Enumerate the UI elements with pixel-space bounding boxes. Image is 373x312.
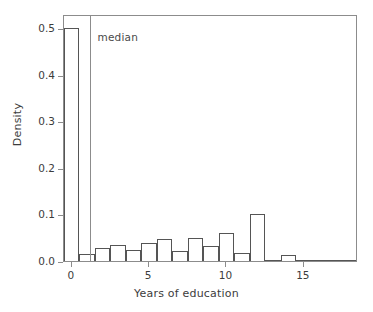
histogram-bar — [95, 248, 110, 261]
histogram-bar — [296, 260, 311, 261]
histogram-bar — [172, 251, 187, 261]
y-tick-label: 0.4 — [38, 69, 55, 81]
median-vline — [90, 16, 91, 261]
x-tick-mark — [148, 262, 149, 267]
y-axis-tick: 0.5 — [0, 29, 63, 30]
histogram-bar — [265, 260, 280, 261]
histogram-bar — [281, 255, 296, 261]
x-tick-label: 10 — [211, 269, 239, 281]
x-tick-label: 5 — [134, 269, 162, 281]
histogram-bar — [250, 214, 265, 261]
plot-frame: median — [63, 15, 357, 262]
histogram-bar — [157, 239, 172, 261]
histogram-bar — [327, 260, 342, 261]
x-tick-label: 15 — [289, 269, 317, 281]
histogram-figure: Density 0.00.10.20.30.40.5 median 051015… — [0, 0, 373, 312]
histogram-bar — [219, 233, 234, 261]
histogram-bar — [79, 254, 94, 261]
x-tick-label: 0 — [57, 269, 85, 281]
y-axis-tick: 0.3 — [0, 122, 63, 123]
histogram-bar — [110, 245, 125, 261]
histogram-bar — [64, 28, 79, 261]
histogram-bar — [188, 238, 203, 261]
y-axis-tick: 0.4 — [0, 76, 63, 77]
histogram-bar — [126, 250, 141, 261]
y-tick-label: 0.1 — [38, 208, 55, 220]
histogram-bar — [312, 260, 327, 261]
x-tick-mark — [303, 262, 304, 267]
histogram-bar — [343, 260, 356, 261]
x-axis-label: Years of education — [0, 287, 373, 300]
y-axis-tick: 0.2 — [0, 169, 63, 170]
median-annotation-label: median — [98, 31, 139, 43]
histogram-bar — [234, 253, 249, 261]
x-tick-mark — [71, 262, 72, 267]
y-axis-tick: 0.1 — [0, 215, 63, 216]
plot-area: median — [64, 16, 356, 261]
y-tick-label: 0.0 — [38, 255, 55, 267]
y-tick-label: 0.5 — [38, 22, 55, 34]
histogram-bar — [203, 246, 218, 261]
y-tick-label: 0.2 — [38, 162, 55, 174]
y-axis-tick: 0.0 — [0, 262, 63, 263]
y-tick-mark — [58, 262, 63, 263]
y-tick-label: 0.3 — [38, 115, 55, 127]
y-axis-label: Density — [11, 80, 24, 170]
x-tick-mark — [225, 262, 226, 267]
histogram-bar — [141, 243, 156, 261]
